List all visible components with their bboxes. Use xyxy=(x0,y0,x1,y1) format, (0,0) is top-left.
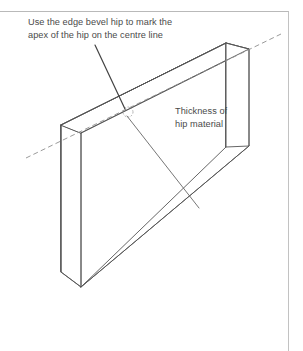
annotation-apex-line-1: Use the edge bevel hip to mark the xyxy=(28,16,172,29)
leader-line-apex xyxy=(95,45,125,109)
block-front-face xyxy=(61,43,226,287)
annotation-apex-instruction: Use the edge bevel hip to mark the apex … xyxy=(28,16,172,41)
annotation-thickness-label: Thickness of hip material xyxy=(175,105,227,130)
hip-material-diagram xyxy=(0,0,303,351)
annotation-apex-line-2: apex of the hip on the centre line xyxy=(28,29,172,42)
hip-material-block xyxy=(61,43,249,287)
annotation-thickness-line-2: hip material xyxy=(175,118,227,131)
block-end-face xyxy=(61,125,81,287)
annotation-thickness-line-1: Thickness of xyxy=(175,105,227,118)
